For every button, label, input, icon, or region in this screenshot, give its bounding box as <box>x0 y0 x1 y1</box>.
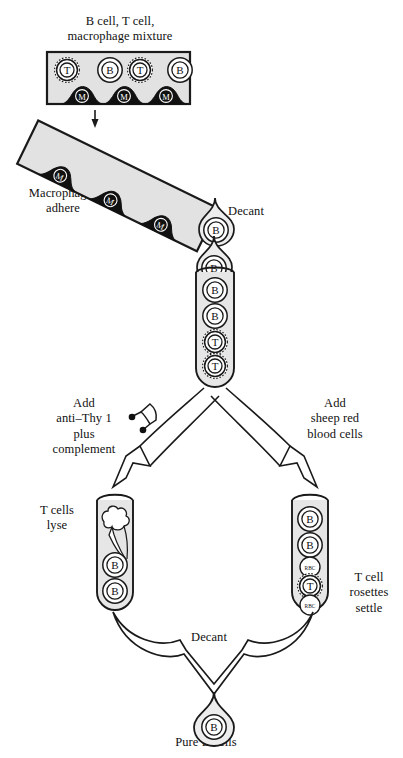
diagram-canvas: B cell, T cell, macrophage mixture Macro… <box>0 0 403 758</box>
cell-letter-macrophage: M <box>78 92 86 102</box>
antibody-icon <box>129 404 157 433</box>
cell-letter-b: B <box>111 559 118 571</box>
cell-letter-b: B <box>176 64 183 76</box>
branch-arrow-left <box>113 388 219 487</box>
cell-letter-b: B <box>306 513 313 525</box>
cell-letter-b: B <box>106 64 113 76</box>
diagram-vectors: T B T B M M M M M M B <box>0 0 403 758</box>
final-droplet: B <box>194 692 234 746</box>
cell-letter-t: T <box>64 64 71 76</box>
cell-letter-t: T <box>307 580 314 592</box>
cell-letter-t: T <box>212 336 219 348</box>
cell-letter-t: T <box>212 360 219 372</box>
cell-letter-rbc: RBC <box>305 565 316 571</box>
cell-letter-b: B <box>211 284 218 296</box>
cell-letter-b: B <box>212 224 219 236</box>
cell-letter-b: B <box>306 539 313 551</box>
center-test-tube: B B T T <box>196 268 234 388</box>
right-test-tube-rosettes: B B RBC T RBC <box>292 495 328 615</box>
cell-letter-b: B <box>111 585 118 597</box>
cell-letter-rbc: RBC <box>305 603 316 609</box>
tilted-dish-macrophages-adhere: M M M <box>17 120 218 251</box>
cell-letter-b: B <box>211 310 218 322</box>
arrow-dish-to-tilted <box>92 110 99 128</box>
cell-letter-macrophage: M <box>120 92 128 102</box>
cell-letter-b: B <box>210 721 217 733</box>
cell-letter-macrophage: M <box>162 92 170 102</box>
arrow-converge-decant <box>113 612 313 694</box>
branch-arrow-right <box>211 388 317 487</box>
culture-dish-mixture: T B T B M M M <box>47 52 192 104</box>
cell-letter-t: T <box>137 64 144 76</box>
left-test-tube-lysed: B B <box>97 495 133 610</box>
